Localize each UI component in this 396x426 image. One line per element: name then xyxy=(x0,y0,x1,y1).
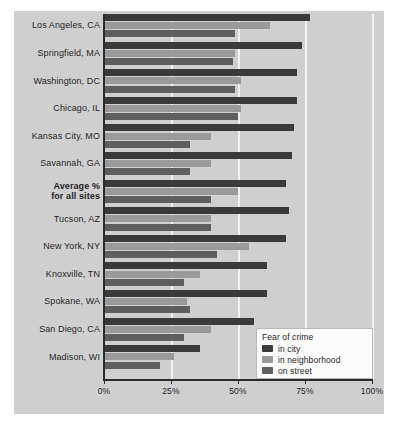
category-label: Kansas City, MO xyxy=(4,131,100,142)
bar xyxy=(104,345,200,352)
x-tick-mark xyxy=(238,379,239,384)
x-tick-label: 50% xyxy=(229,386,247,396)
bar xyxy=(104,251,217,258)
y-axis-category-labels: Los Angeles, CASpringfield, MAWashington… xyxy=(0,0,100,426)
bar xyxy=(104,243,249,250)
bar xyxy=(104,42,302,49)
bar xyxy=(104,207,289,214)
bar xyxy=(104,77,241,84)
category-label: Los Angeles, CA xyxy=(4,20,100,31)
category-label-line: Tucson, AZ xyxy=(4,214,100,225)
bar xyxy=(104,30,235,37)
bar xyxy=(104,113,238,120)
bar xyxy=(104,215,211,222)
bar-group xyxy=(104,69,372,92)
legend-entry: in neighborhood xyxy=(262,354,368,365)
bar xyxy=(104,22,270,29)
legend-swatch-icon xyxy=(262,345,273,352)
bar xyxy=(104,105,241,112)
legend-entry-label: on street xyxy=(278,366,312,376)
bar xyxy=(104,86,235,93)
category-label: New York, NY xyxy=(4,241,100,252)
x-tick-mark xyxy=(372,379,373,384)
gridline-100 xyxy=(372,14,374,379)
x-tick-mark xyxy=(305,379,306,384)
bar xyxy=(104,168,190,175)
category-label-line: Spokane, WA xyxy=(4,296,100,307)
category-label: Knoxville, TN xyxy=(4,269,100,280)
category-label: Tucson, AZ xyxy=(4,214,100,225)
bar xyxy=(104,160,211,167)
bar xyxy=(104,362,160,369)
category-label-line: Savannah, GA xyxy=(4,158,100,169)
category-label: Savannah, GA xyxy=(4,158,100,169)
x-tick-label: 100% xyxy=(361,386,384,396)
bar-chart-figure: 0%25%50%75%100% Los Angeles, CASpringfie… xyxy=(0,0,396,426)
legend-entries: in cityin neighborhoodon street xyxy=(262,343,368,376)
bar xyxy=(104,124,294,131)
legend-swatch-icon xyxy=(262,356,273,363)
bar xyxy=(104,50,235,57)
category-label-line: for all sites xyxy=(4,191,100,202)
bar xyxy=(104,224,211,231)
category-label: Washington, DC xyxy=(4,76,100,87)
category-label-line: Chicago, IL xyxy=(4,103,100,114)
bar xyxy=(104,196,211,203)
bar xyxy=(104,235,286,242)
bar xyxy=(104,353,174,360)
bar-group xyxy=(104,207,372,230)
category-label-line: Knoxville, TN xyxy=(4,269,100,280)
bar xyxy=(104,271,200,278)
bar xyxy=(104,180,286,187)
bar xyxy=(104,97,297,104)
bar-group xyxy=(104,235,372,258)
bar xyxy=(104,334,184,341)
category-label: San Diego, CA xyxy=(4,324,100,335)
bar-group xyxy=(104,97,372,120)
bar-group xyxy=(104,180,372,203)
category-label-line: Average % xyxy=(4,181,100,192)
bar xyxy=(104,141,190,148)
bar xyxy=(104,298,187,305)
x-tick-label: 75% xyxy=(296,386,314,396)
bar xyxy=(104,326,211,333)
category-label: Chicago, IL xyxy=(4,103,100,114)
bar xyxy=(104,318,254,325)
category-label: Madison, WI xyxy=(4,352,100,363)
legend-entry: on street xyxy=(262,365,368,376)
bar xyxy=(104,306,190,313)
category-label-line: Springfield, MA xyxy=(4,48,100,59)
bar xyxy=(104,58,233,65)
category-label: Spokane, WA xyxy=(4,296,100,307)
x-tick-mark xyxy=(104,379,105,384)
category-label: Average %for all sites xyxy=(4,181,100,202)
x-tick-label: 25% xyxy=(162,386,180,396)
category-label-line: Washington, DC xyxy=(4,76,100,87)
legend-entry-label: in city xyxy=(278,344,300,354)
legend-entry-label: in neighborhood xyxy=(278,355,340,365)
bar xyxy=(104,133,211,140)
x-tick-mark xyxy=(171,379,172,384)
category-label-line: San Diego, CA xyxy=(4,324,100,335)
category-label-line: New York, NY xyxy=(4,241,100,252)
legend-entry: in city xyxy=(262,343,368,354)
category-label-line: Kansas City, MO xyxy=(4,131,100,142)
bar xyxy=(104,290,267,297)
bar-group xyxy=(104,124,372,147)
bar-group xyxy=(104,42,372,65)
category-label-line: Madison, WI xyxy=(4,352,100,363)
bar-group xyxy=(104,262,372,285)
bar-group xyxy=(104,290,372,313)
bar xyxy=(104,188,238,195)
category-label: Springfield, MA xyxy=(4,48,100,59)
bar xyxy=(104,69,297,76)
bar xyxy=(104,279,184,286)
bar-group xyxy=(104,14,372,37)
legend-swatch-icon xyxy=(262,367,273,374)
bar xyxy=(104,262,267,269)
plot-area xyxy=(104,14,372,379)
y-axis-line xyxy=(103,14,105,381)
category-label-line: Los Angeles, CA xyxy=(4,20,100,31)
bar-group xyxy=(104,152,372,175)
bar xyxy=(104,14,310,21)
